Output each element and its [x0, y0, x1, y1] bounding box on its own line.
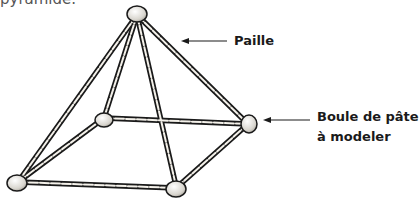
- arrow-clay-ball: [263, 117, 310, 123]
- clay-ball-right: [241, 115, 257, 133]
- straw-label: Paille: [234, 31, 274, 51]
- clay-ball-label-line2: à modeler: [317, 127, 419, 147]
- clay-ball-front-left: [7, 175, 27, 191]
- clay-ball-label-line1: Boule de pâte: [317, 107, 419, 127]
- clay-ball-back-left: [95, 113, 113, 127]
- clay-ball-front-right: [166, 181, 186, 197]
- clay-ball-apex: [127, 6, 147, 22]
- arrow-straw: [181, 38, 227, 44]
- clay-ball-label: Boule de pâte à modeler: [317, 107, 419, 147]
